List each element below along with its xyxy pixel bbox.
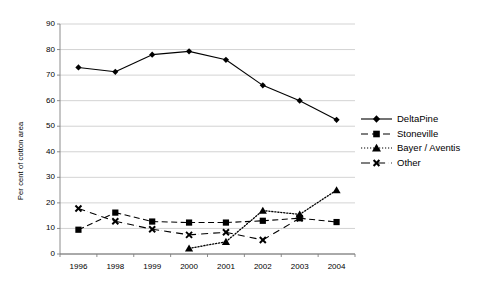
series-line-segment — [263, 85, 300, 100]
series-line-segment — [226, 211, 263, 242]
legend-item-bayer-aventis: Bayer / Aventis — [360, 141, 460, 156]
series-line-segment — [300, 218, 337, 222]
series-line-segment — [226, 232, 263, 240]
data-point-diamond — [112, 69, 118, 75]
series-line-segment — [78, 209, 115, 222]
series-line-segment — [300, 101, 337, 120]
data-point-square — [223, 219, 229, 225]
data-point-triangle — [332, 186, 340, 193]
data-point-diamond — [149, 52, 155, 58]
legend-key-square-icon — [360, 128, 393, 140]
series-line-segment — [78, 67, 115, 71]
data-point-square — [112, 210, 118, 216]
data-point-diamond — [297, 98, 303, 104]
series-line-segment — [115, 221, 152, 229]
data-point-cross — [260, 237, 266, 243]
series-line-segment — [152, 229, 189, 235]
data-point-diamond — [333, 117, 339, 123]
series-line-segment — [115, 55, 152, 72]
series-line-segment — [226, 221, 263, 223]
legend-item-deltapine: DeltaPine — [360, 112, 460, 127]
legend-key-diamond-icon — [360, 113, 393, 125]
legend-label-bayer-aventis: Bayer / Aventis — [397, 142, 460, 154]
data-point-cross — [75, 206, 81, 212]
chart-container: Per cent of cotton area 0102030405060708… — [0, 0, 490, 293]
axis-lines — [57, 24, 355, 257]
data-point-square — [260, 218, 266, 224]
series-line-segment — [263, 218, 300, 221]
series-line-segment — [226, 60, 263, 86]
series-line-segment — [189, 51, 226, 59]
data-point-square — [149, 218, 155, 224]
legend-key-cross-icon — [360, 157, 393, 169]
series-line-segment — [152, 51, 189, 54]
series-deltapine — [75, 48, 339, 123]
data-point-diamond — [75, 64, 81, 70]
legend-key-triangle-icon — [360, 142, 393, 154]
legend-item-other: Other — [360, 156, 460, 171]
data-point-square — [333, 219, 339, 225]
series-line-segment — [189, 232, 226, 235]
chart-legend: DeltaPine Stoneville Bayer / Aventis — [360, 112, 460, 170]
series-line-segment — [300, 190, 337, 214]
legend-label-stoneville: Stoneville — [397, 128, 438, 140]
series-line-segment — [152, 222, 189, 223]
series-line-segment — [78, 213, 115, 230]
series-line-segment — [263, 218, 300, 240]
series-line-segment — [115, 213, 152, 222]
data-point-square — [186, 219, 192, 225]
data-point-square — [75, 227, 81, 233]
legend-item-stoneville: Stoneville — [360, 127, 460, 142]
legend-label-deltapine: DeltaPine — [397, 113, 438, 125]
data-point-triangle — [259, 207, 267, 214]
series-line-segment — [189, 242, 226, 249]
legend-label-other: Other — [397, 157, 421, 169]
series-line-segment — [263, 211, 300, 215]
